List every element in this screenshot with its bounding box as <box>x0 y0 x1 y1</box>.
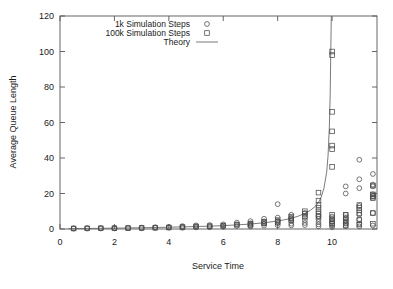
x-tick-label: 10 <box>327 237 337 247</box>
y-tick-label: 80 <box>44 82 54 92</box>
y-tick-label: 60 <box>44 118 54 128</box>
y-axis-title: Average Queue Length <box>8 76 18 169</box>
y-tick-label: 20 <box>44 189 54 199</box>
x-tick-label: 6 <box>221 237 226 247</box>
legend-label-3: Theory <box>164 37 191 47</box>
y-tick-label: 0 <box>49 224 54 234</box>
y-tick-label: 100 <box>39 47 54 57</box>
x-tick-label: 4 <box>166 237 171 247</box>
x-axis-title: Service Time <box>192 261 244 271</box>
x-tick-label: 2 <box>112 237 117 247</box>
y-tick-label: 120 <box>39 11 54 21</box>
x-tick-label: 0 <box>57 237 62 247</box>
x-tick-label: 8 <box>275 237 280 247</box>
chart-root: 020406080100120 0246810 Average Queue Le… <box>0 0 393 289</box>
queue-length-scatter-chart: 020406080100120 0246810 Average Queue Le… <box>0 0 393 289</box>
y-tick-label: 40 <box>44 153 54 163</box>
